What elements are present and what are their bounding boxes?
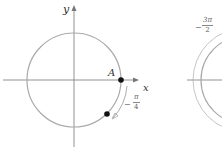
- x-axis-arrow-icon: [133, 78, 139, 83]
- right-angle-sign: −: [195, 23, 202, 32]
- right-angle-numerator: 3π: [202, 17, 213, 26]
- y-axis-label: y: [63, 4, 69, 15]
- right-figure: [187, 28, 222, 132]
- right-angle-fraction: 3π 2: [202, 17, 213, 34]
- left-figure: [3, 5, 139, 147]
- angle-fraction: π 4: [133, 94, 140, 111]
- right-angle-denominator: 2: [202, 26, 213, 34]
- point-a: [118, 77, 124, 83]
- point-a-label: A: [108, 68, 115, 78]
- x-axis-label: x: [143, 83, 149, 93]
- y-axis-arrow-icon: [72, 5, 77, 11]
- rotated-point: [104, 111, 110, 117]
- angle-denominator: 4: [133, 103, 140, 111]
- angle-sign: −: [124, 100, 131, 109]
- angle-numerator: π: [133, 94, 140, 103]
